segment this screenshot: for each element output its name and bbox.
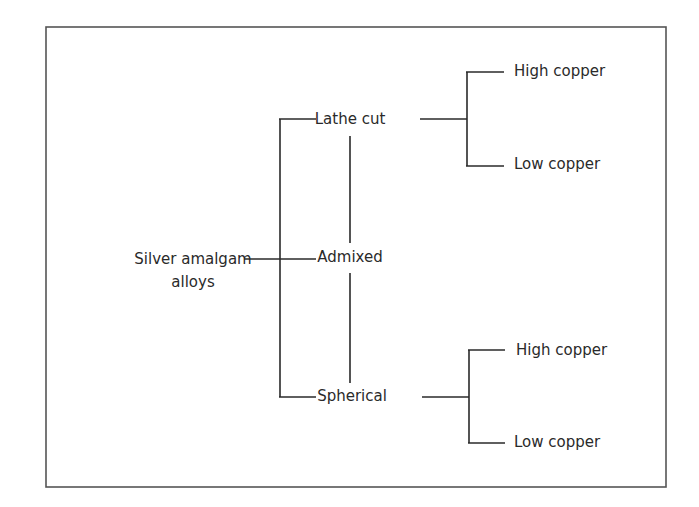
root-label-line-2: alloys [171, 273, 215, 291]
node-admixed: Admixed [317, 248, 382, 266]
node-spherical-low-copper: Low copper [514, 433, 601, 451]
node-lathe-cut: Lathe cut [315, 110, 386, 128]
node-spherical: Spherical [317, 387, 387, 405]
node-lathe-low-copper: Low copper [514, 155, 601, 173]
amalgam-classification-diagram: Silver amalgam alloys Lathe cut Admixed … [0, 0, 699, 507]
root-label-line-1: Silver amalgam [134, 250, 251, 268]
node-lathe-high-copper: High copper [514, 62, 606, 80]
node-spherical-high-copper: High copper [516, 341, 608, 359]
